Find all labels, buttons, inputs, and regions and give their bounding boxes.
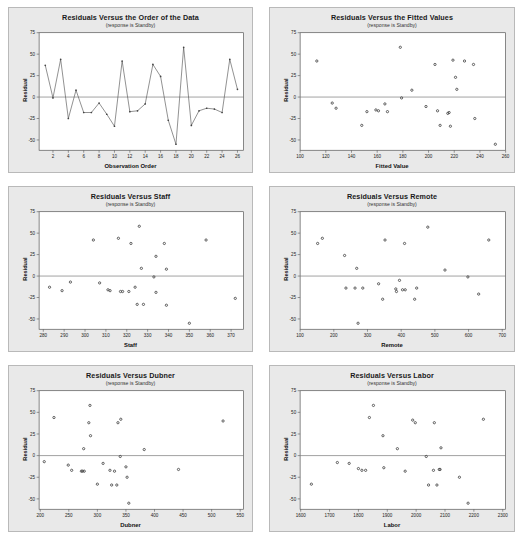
svg-text:50: 50: [30, 52, 36, 57]
svg-text:75: 75: [30, 30, 36, 35]
svg-text:0: 0: [33, 453, 36, 458]
svg-text:-25: -25: [29, 295, 36, 300]
svg-text:100: 100: [296, 154, 304, 159]
svg-text:75: 75: [291, 209, 297, 214]
svg-text:75: 75: [30, 209, 36, 214]
svg-text:160: 160: [373, 154, 381, 159]
svg-text:25: 25: [291, 252, 297, 257]
svg-text:25: 25: [30, 73, 36, 78]
svg-text:50: 50: [30, 410, 36, 415]
svg-text:360: 360: [206, 333, 214, 338]
svg-text:310: 310: [102, 333, 110, 338]
svg-text:25: 25: [291, 432, 297, 437]
svg-text:16: 16: [158, 154, 164, 159]
svg-text:300: 300: [94, 513, 102, 518]
plot-canvas: 7550250-25-50200250300350400450500550: [9, 366, 252, 531]
svg-text:25: 25: [291, 73, 297, 78]
svg-text:-50: -50: [290, 497, 297, 502]
panel-staff: Residuals Versus Staff (response is Stan…: [0, 179, 261, 358]
svg-text:1600: 1600: [296, 513, 307, 518]
svg-text:2200: 2200: [469, 513, 480, 518]
svg-text:-50: -50: [29, 138, 36, 143]
svg-text:300: 300: [364, 333, 372, 338]
plot-canvas: 7550250-25-50100200300400500600700: [270, 187, 514, 351]
svg-text:-50: -50: [290, 317, 297, 322]
svg-text:-25: -25: [29, 116, 36, 121]
svg-text:-25: -25: [290, 116, 297, 121]
svg-text:200: 200: [330, 333, 338, 338]
svg-text:350: 350: [186, 333, 194, 338]
panel-frame: Residuals Versus Labor (response is Stan…: [269, 365, 515, 532]
svg-text:26: 26: [235, 154, 241, 159]
svg-text:700: 700: [498, 333, 506, 338]
svg-text:12: 12: [127, 154, 133, 159]
panel-fitted: Residuals Versus the Fitted Values (resp…: [261, 0, 523, 179]
svg-text:290: 290: [60, 333, 68, 338]
svg-text:180: 180: [399, 154, 407, 159]
svg-text:500: 500: [208, 513, 216, 518]
svg-text:1700: 1700: [325, 513, 336, 518]
svg-text:18: 18: [173, 154, 179, 159]
svg-text:200: 200: [425, 154, 433, 159]
svg-text:-50: -50: [29, 317, 36, 322]
svg-text:0: 0: [294, 274, 297, 279]
svg-text:0: 0: [294, 95, 297, 100]
svg-text:1800: 1800: [353, 513, 364, 518]
svg-text:240: 240: [476, 154, 484, 159]
panel-order: Residuals Versus the Order of the Data (…: [0, 0, 261, 179]
panel-labor: Residuals Versus Labor (response is Stan…: [261, 358, 523, 538]
svg-text:330: 330: [144, 333, 152, 338]
svg-text:10: 10: [112, 154, 118, 159]
panel-frame: Residuals Versus the Order of the Data (…: [8, 7, 253, 173]
svg-text:220: 220: [450, 154, 458, 159]
svg-text:-50: -50: [290, 138, 297, 143]
svg-text:2000: 2000: [411, 513, 422, 518]
svg-text:140: 140: [348, 154, 356, 159]
svg-text:120: 120: [322, 154, 330, 159]
svg-text:-25: -25: [290, 475, 297, 480]
svg-text:340: 340: [165, 333, 173, 338]
svg-text:550: 550: [236, 513, 244, 518]
svg-text:400: 400: [397, 333, 405, 338]
svg-text:320: 320: [123, 333, 131, 338]
svg-text:75: 75: [30, 388, 36, 393]
svg-text:6: 6: [82, 154, 85, 159]
svg-text:350: 350: [122, 513, 130, 518]
svg-text:0: 0: [33, 95, 36, 100]
svg-text:75: 75: [291, 388, 297, 393]
svg-text:22: 22: [204, 154, 210, 159]
svg-text:8: 8: [98, 154, 101, 159]
svg-text:4: 4: [67, 154, 70, 159]
residual-plot-grid: Residuals Versus the Order of the Data (…: [0, 0, 523, 538]
svg-text:50: 50: [291, 410, 297, 415]
svg-text:400: 400: [151, 513, 159, 518]
svg-text:0: 0: [33, 274, 36, 279]
svg-text:20: 20: [189, 154, 195, 159]
svg-text:300: 300: [81, 333, 89, 338]
plot-canvas: 7550250-25-50280290300310320330340350360…: [9, 187, 252, 351]
panel-dubner: Residuals Versus Dubner (response is Sta…: [0, 358, 261, 538]
svg-text:-25: -25: [290, 295, 297, 300]
svg-text:100: 100: [296, 333, 304, 338]
svg-text:0: 0: [294, 453, 297, 458]
svg-text:200: 200: [36, 513, 44, 518]
svg-text:50: 50: [30, 231, 36, 236]
panel-frame: Residuals Versus the Fitted Values (resp…: [269, 7, 515, 173]
svg-text:-50: -50: [29, 497, 36, 502]
svg-text:24: 24: [220, 154, 226, 159]
svg-text:-25: -25: [29, 475, 36, 480]
panel-frame: Residuals Versus Remote (response is Sta…: [269, 186, 515, 352]
svg-text:600: 600: [465, 333, 473, 338]
plot-canvas: 7550250-25-50100120140160180200220240260: [270, 8, 514, 172]
svg-text:50: 50: [291, 231, 297, 236]
svg-text:50: 50: [291, 52, 297, 57]
svg-text:280: 280: [40, 333, 48, 338]
svg-text:2100: 2100: [440, 513, 451, 518]
plot-canvas: 7550250-25-50160017001800190020002100220…: [270, 366, 514, 531]
panel-frame: Residuals Versus Dubner (response is Sta…: [8, 365, 253, 532]
svg-text:450: 450: [179, 513, 187, 518]
svg-text:2: 2: [52, 154, 55, 159]
panel-remote: Residuals Versus Remote (response is Sta…: [261, 179, 523, 358]
svg-text:14: 14: [143, 154, 149, 159]
svg-text:25: 25: [30, 252, 36, 257]
